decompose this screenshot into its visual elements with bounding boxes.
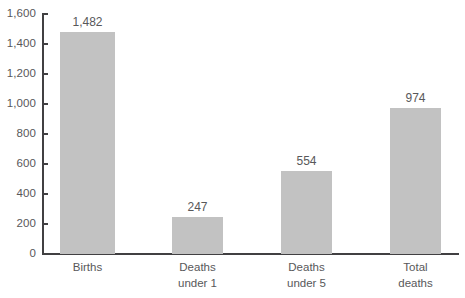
y-tick-mark (43, 43, 48, 44)
y-tick-mark (43, 13, 48, 14)
y-tick-label: 1,600 (0, 8, 36, 20)
y-tick-mark (43, 103, 48, 104)
x-label-line2: under 1 (165, 275, 230, 291)
bar-value-births: 1,482 (60, 16, 115, 28)
y-tick-label: 800 (0, 128, 36, 140)
bar-value-total-deaths: 974 (390, 92, 441, 104)
y-tick-mark (43, 73, 48, 74)
plot-area: 1,600 1,400 1,200 1,000 800 600 400 200 (0, 0, 465, 298)
x-label-line1: Births (73, 261, 102, 273)
x-label-deaths-under-5: Deaths under 5 (274, 259, 339, 291)
y-tick-label: 1,200 (0, 68, 36, 80)
bar-value-deaths-under-5: 554 (281, 155, 332, 167)
x-label-line1: Deaths (288, 261, 324, 273)
x-label-births: Births (60, 259, 115, 275)
y-tick-label: 400 (0, 188, 36, 200)
bar-deaths-under-5[interactable] (281, 171, 332, 254)
y-tick-mark (43, 253, 48, 254)
x-label-line1: Deaths (179, 261, 215, 273)
x-label-line2: under 5 (274, 275, 339, 291)
y-tick-label: 0 (0, 248, 36, 260)
x-label-total-deaths: Total deaths (383, 259, 448, 291)
y-tick-mark (43, 193, 48, 194)
y-tick-label: 1,400 (0, 38, 36, 50)
y-tick-mark (43, 133, 48, 134)
x-label-line2: deaths (383, 275, 448, 291)
bar-deaths-under-1[interactable] (172, 217, 223, 254)
bar-births[interactable] (60, 32, 115, 254)
bar-total-deaths[interactable] (390, 108, 441, 254)
y-tick-mark (43, 163, 48, 164)
x-label-deaths-under-1: Deaths under 1 (165, 259, 230, 291)
y-tick-mark (43, 223, 48, 224)
bar-chart: 1,600 1,400 1,200 1,000 800 600 400 200 (0, 0, 465, 298)
bar-value-deaths-under-1: 247 (172, 201, 223, 213)
y-tick-label: 600 (0, 158, 36, 170)
y-tick-label: 1,000 (0, 98, 36, 110)
y-tick-label: 200 (0, 218, 36, 230)
x-label-line1: Total (403, 261, 427, 273)
